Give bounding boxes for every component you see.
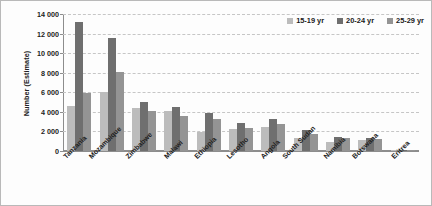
x-axis-tick-labels: TanzaniaMozambiqueZimbabweMalawiEthiopia… [63,153,419,205]
x-tick-cell: Mozambique [95,153,127,205]
bar-group [387,14,419,151]
legend-item: 15-19 yr [287,16,324,25]
bar-group [354,14,386,151]
legend-swatch-icon [287,18,293,24]
y-tick-label: 12 000 [37,29,59,38]
bar-group [322,14,354,151]
bar-group [257,14,289,151]
y-tick-label: 6 000 [41,88,59,97]
bar [407,150,415,151]
bar [213,119,221,151]
bar [277,124,285,151]
bar [116,72,124,151]
x-tick-cell: Eritrea [387,153,419,205]
bar-group [63,14,95,151]
legend-swatch-icon [337,18,343,24]
y-tick-label: 4 000 [41,107,59,116]
bar [75,22,83,151]
y-axis-title: Number (Estimate) [22,9,31,159]
legend-label: 15-19 yr [296,16,324,25]
legend-label: 20-24 yr [346,16,374,25]
x-tick-cell: Ethiopia [192,153,224,205]
x-tick-cell: Namibia [322,153,354,205]
x-tick-cell: Botswana [354,153,386,205]
chart-legend: 15-19 yr20-24 yr25-29 yr [287,16,424,25]
x-tick-cell: Angola [257,153,289,205]
legend-item: 25-29 yr [387,16,424,25]
bar-chart-figure: Number (Estimate) 02 0004 0006 0008 0001… [0,0,432,206]
legend-label: 25-29 yr [396,16,424,25]
y-tick-label: 14 000 [37,10,59,19]
x-tick-cell: Lesotho [225,153,257,205]
x-tick-cell: South Sudan [290,153,322,205]
y-tick-mark [60,151,63,152]
x-tick-cell: Malawi [160,153,192,205]
x-tick-cell: Zimbabwe [128,153,160,205]
bar-group [225,14,257,151]
bar [374,139,382,151]
axis-baseline [63,151,419,152]
x-tick-cell: Tanzania [63,153,95,205]
bar-group [128,14,160,151]
y-tick-label: 0 [55,147,59,156]
bar [310,134,318,151]
bar-group [192,14,224,151]
legend-swatch-icon [387,18,393,24]
y-tick-label: 10 000 [37,49,59,58]
y-tick-label: 2 000 [41,127,59,136]
legend-item: 20-24 yr [337,16,374,25]
bar-group [160,14,192,151]
y-tick-label: 8 000 [41,68,59,77]
